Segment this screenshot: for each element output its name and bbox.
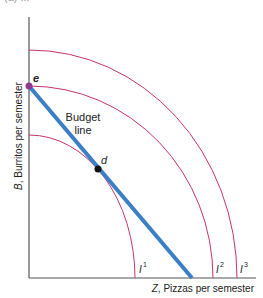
svg-text:1: 1 — [143, 261, 147, 268]
svg-text:2: 2 — [220, 261, 224, 268]
i3-label: I 3 — [240, 261, 248, 275]
budget-line-label-1: Budget — [66, 111, 101, 123]
svg-text:I: I — [139, 264, 142, 275]
indifference-curve-i3 — [29, 50, 237, 278]
i2-label: I 2 — [216, 261, 224, 275]
x-axis-label: Z, Pizzas per semester — [151, 283, 255, 294]
indifference-curve-i2 — [29, 86, 213, 278]
indifference-chart: e d Budget line I 1 I 2 I 3 Z, Pizzas pe… — [0, 0, 263, 298]
point-d-label: d — [101, 154, 108, 166]
i1-label: I 1 — [139, 261, 147, 275]
point-e — [26, 83, 33, 90]
svg-text:I: I — [216, 264, 219, 275]
indifference-curve-i1 — [29, 135, 135, 278]
budget-line-label-2: line — [74, 124, 91, 136]
budget-line — [29, 86, 192, 278]
svg-text:3: 3 — [244, 261, 248, 268]
y-axis-label: B, Burritos per semester — [13, 82, 24, 190]
svg-text:I: I — [240, 264, 243, 275]
point-e-label: e — [33, 72, 39, 84]
point-d — [95, 166, 102, 173]
